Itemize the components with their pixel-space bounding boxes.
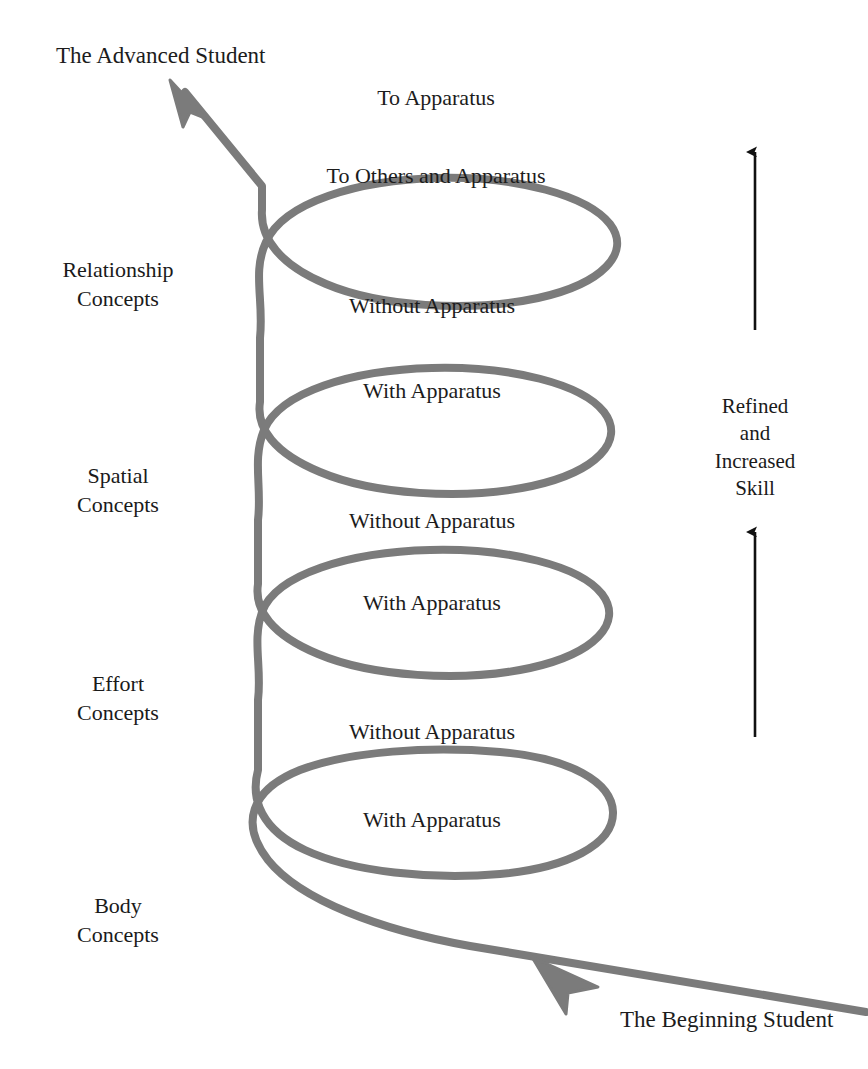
stage-label-line2: Concepts	[77, 491, 159, 520]
loop-4-inner-label: With Apparatus	[363, 806, 501, 834]
stage-label-line1: Body	[77, 892, 159, 921]
stage-label-spatial: Spatial Concepts	[77, 462, 159, 519]
loop-4-outer-label: Without Apparatus	[349, 718, 515, 746]
spiral-path-icon	[170, 80, 866, 1014]
stage-label-line2: Concepts	[62, 285, 173, 314]
stage-label-line2: Concepts	[77, 699, 159, 728]
loop-3-inner-label: With Apparatus	[363, 589, 501, 617]
skill-axis-line-1: Refined	[715, 393, 795, 420]
beginning-student-label: The Beginning Student	[620, 1006, 833, 1035]
stage-label-line2: Concepts	[77, 921, 159, 950]
loop-1-outer-label: To Apparatus	[377, 84, 495, 112]
loop-3-outer-label: Without Apparatus	[349, 507, 515, 535]
skill-axis-label: Refined and Increased Skill	[715, 393, 795, 502]
diagram-canvas: The Advanced Student The Beginning Stude…	[0, 0, 868, 1069]
loop-2-outer-label: Without Apparatus	[349, 292, 515, 320]
stage-label-effort: Effort Concepts	[77, 670, 159, 727]
loop-1-inner-label: To Others and Apparatus	[326, 162, 545, 190]
stage-label-body: Body Concepts	[77, 892, 159, 949]
stage-label-line1: Spatial	[77, 462, 159, 491]
loop-2-inner-label: With Apparatus	[363, 377, 501, 405]
advanced-student-label: The Advanced Student	[56, 42, 266, 71]
stage-label-relationship: Relationship Concepts	[62, 256, 173, 313]
stage-label-line1: Relationship	[62, 256, 173, 285]
skill-axis-line-2: and	[715, 420, 795, 447]
stage-label-line1: Effort	[77, 670, 159, 699]
skill-axis-line-3: Increased	[715, 448, 795, 475]
skill-axis-line-4: Skill	[715, 475, 795, 502]
arrow-up-left-icon	[170, 80, 205, 127]
